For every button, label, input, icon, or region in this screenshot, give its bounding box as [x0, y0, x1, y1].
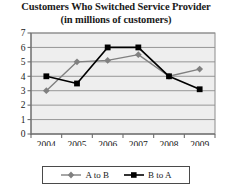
y-tick-label: 5: [21, 57, 26, 67]
chart-legend: A to B B to A: [42, 166, 190, 184]
y-tick-label: 7: [21, 28, 26, 38]
x-tick-label: 2005: [68, 140, 87, 147]
chart-title-line-1: Customers Who Switched Service Provider: [0, 1, 232, 14]
y-tick-label: 0: [21, 129, 26, 139]
chart-subtitle: (in millions of customers): [0, 14, 232, 27]
data-point-square: [135, 45, 141, 51]
legend-item-b-to-a: B to A: [123, 170, 172, 180]
legend-item-a-to-b: A to B: [60, 170, 109, 180]
x-tick-label: 2008: [160, 140, 179, 147]
diamond-marker-icon: [60, 170, 82, 180]
chart-container: Customers Who Switched Service Provider …: [0, 0, 232, 192]
data-point-square: [197, 86, 203, 92]
data-point-square: [74, 81, 80, 87]
y-tick-label: 1: [21, 115, 26, 125]
chart-title: Customers Who Switched Service Provider …: [0, 1, 232, 26]
x-tick-label: 2006: [98, 140, 117, 147]
x-tick-label: 2007: [129, 140, 148, 147]
legend-label-a-to-b: A to B: [85, 170, 109, 180]
x-tick-label: 2004: [37, 140, 56, 147]
line-chart-svg: 01234567200420052006200720082009: [0, 28, 232, 146]
y-tick-label: 4: [21, 72, 26, 82]
legend-label-b-to-a: B to A: [148, 170, 172, 180]
y-tick-label: 2: [21, 100, 26, 110]
y-tick-label: 3: [21, 86, 26, 96]
data-point-square: [43, 73, 49, 79]
data-point-square: [166, 73, 172, 79]
y-tick-label: 6: [21, 43, 26, 53]
x-tick-label: 2009: [190, 140, 209, 147]
square-marker-icon: [123, 170, 145, 180]
data-point-square: [105, 45, 111, 51]
plot-area: 01234567200420052006200720082009: [0, 28, 232, 146]
